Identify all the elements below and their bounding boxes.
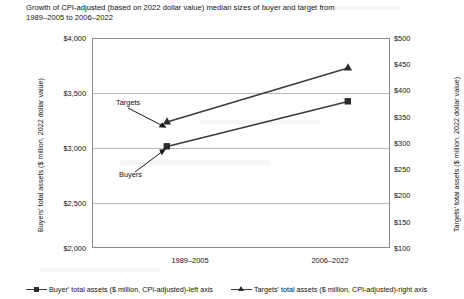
right-tick-label: $200 xyxy=(394,191,434,200)
legend-triangle-marker-icon xyxy=(231,286,252,293)
left-tick-label: $2,000 xyxy=(40,244,86,253)
legend-item-targets[interactable]: Targets' total assets ($ million, CPI-ad… xyxy=(231,285,427,294)
left-tick-label: $2,500 xyxy=(40,199,86,208)
right-tick-label: $500 xyxy=(394,34,434,43)
right-tick-label: $450 xyxy=(394,60,434,69)
left-tick-label: $4,000 xyxy=(40,34,86,43)
legend-label-targets: Targets' total assets ($ million, CPI-ad… xyxy=(254,285,427,294)
right-axis-title: Targets' total assets ($ million, 2022 d… xyxy=(452,77,461,232)
x-axis-category-label: 2006–2022 xyxy=(290,256,370,265)
right-tick-label: $100 xyxy=(394,244,434,253)
left-axis-title: Buyers' total assets ($ million, 2022 do… xyxy=(36,78,45,232)
annotation-targets: Targets xyxy=(116,98,140,107)
right-tick-label: $300 xyxy=(394,139,434,148)
x-axis-category-label: 1989–2005 xyxy=(150,256,230,265)
legend-label-buyers: Buyer' total assets ($ million, CPI-adju… xyxy=(49,285,213,294)
chart-figure: Growth of CPI-adjusted (based on 2022 do… xyxy=(0,0,464,299)
right-tick-label: $400 xyxy=(394,86,434,95)
legend-square-marker-icon xyxy=(26,286,47,293)
legend-item-buyers[interactable]: Buyer' total assets ($ million, CPI-adju… xyxy=(26,285,213,294)
right-tick-label: $350 xyxy=(394,113,434,122)
left-tick-label: $3,500 xyxy=(40,89,86,98)
scan-artifact xyxy=(40,268,160,272)
plot-area xyxy=(92,38,390,248)
right-tick-label: $150 xyxy=(394,218,434,227)
chart-title: Growth of CPI-adjusted (based on 2022 do… xyxy=(26,3,356,24)
right-tick-label: $250 xyxy=(394,165,434,174)
annotation-buyers: Buyers xyxy=(119,170,142,179)
chart-legend: Buyer' total assets ($ million, CPI-adju… xyxy=(26,283,446,295)
left-tick-label: $3,000 xyxy=(40,144,86,153)
